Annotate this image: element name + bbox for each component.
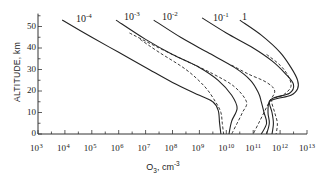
curve-solid-4 [154,20,267,134]
curve-label: 10-2 [162,11,178,22]
x-tick-label: 104 [57,143,70,153]
y-tick-label: 40 [22,43,36,52]
ozone-altitude-chart [0,0,325,180]
x-tick-label: 107 [138,143,151,153]
curve-label: 10-4 [76,13,92,24]
plot-area [0,0,325,180]
x-tick-label: 103 [30,143,43,153]
y-tick-label: 20 [22,86,36,95]
curve-label: 1 [242,12,247,22]
x-tick-label: 1013 [299,143,315,153]
curve-label: 10-1 [213,12,229,23]
x-tick-label: 1010 [218,143,234,153]
y-tick-label: 30 [22,65,36,74]
x-tick-label: 106 [111,143,124,153]
x-axis-title: O3, cm-3 [146,160,179,174]
curve-dashed-5 [232,65,275,134]
x-tick-label: 105 [84,143,97,153]
y-axis-title: ALTITUDE, km [12,42,22,102]
y-tick-label: 50 [22,22,36,31]
y-tick-label: 10 [22,108,36,117]
y-tick-label: 0 [22,129,36,138]
curve-dashed-3 [130,33,247,134]
x-tick-label: 1011 [245,143,261,153]
x-tick-label: 1012 [272,143,288,153]
curve-label: 10-3 [124,11,140,22]
curve-solid-6 [202,18,294,134]
x-tick-label: 108 [165,143,178,153]
curve-solid-8 [240,20,299,134]
x-tick-label: 109 [191,143,204,153]
